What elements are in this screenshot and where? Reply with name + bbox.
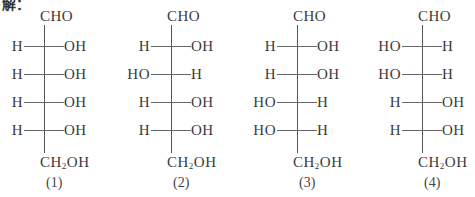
right-substituent: H [317,95,328,110]
substituent-bond [277,130,317,131]
left-substituent: HO [253,95,276,110]
substituent-bond [277,74,317,75]
substituent-bond [24,74,64,75]
substituent-bond [277,102,317,103]
substituent-bond [402,130,442,131]
hydroxymethyl-group: CH2OH [293,155,343,174]
oh-text: OH [320,154,343,170]
oh-text: OH [445,154,468,170]
structure-number-label: (4) [424,176,440,190]
aldehyde-group: CHO [293,9,326,24]
left-substituent: H [390,95,401,110]
left-substituent: H [139,123,150,138]
left-substituent: H [265,67,276,82]
structure-number-label: (1) [46,176,62,190]
left-substituent: H [12,123,23,138]
substituent-bond [151,102,191,103]
substituent-bond [277,46,317,47]
left-substituent: H [12,67,23,82]
right-substituent: OH [64,95,87,110]
left-substituent: HO [378,67,401,82]
carbon-chain-line [297,25,298,153]
substituent-bond [151,74,191,75]
oh-text: OH [194,154,217,170]
ch-text: CH [40,154,62,170]
substituent-bond [402,74,442,75]
left-substituent: HO [127,67,150,82]
substituent-bond [24,102,64,103]
oh-text: OH [67,154,90,170]
substituent-bond [24,130,64,131]
substituent-bond [402,46,442,47]
right-substituent: H [442,67,453,82]
hydroxymethyl-group: CH2OH [40,155,90,174]
left-substituent: H [12,39,23,54]
right-substituent: OH [442,123,465,138]
carbon-chain-line [422,25,423,153]
right-substituent: OH [64,67,87,82]
structure-number-label: (3) [299,176,315,190]
ch-text: CH [418,154,440,170]
aldehyde-group: CHO [418,9,451,24]
left-substituent: H [265,39,276,54]
right-substituent: OH [64,123,87,138]
left-substituent: HO [378,39,401,54]
right-substituent: OH [64,39,87,54]
substituent-bond [402,102,442,103]
right-substituent: H [191,67,202,82]
ch-text: CH [293,154,315,170]
right-substituent: H [442,39,453,54]
right-substituent: OH [317,67,340,82]
left-substituent: H [390,123,401,138]
right-substituent: OH [191,123,214,138]
substituent-bond [151,46,191,47]
substituent-bond [24,46,64,47]
structure-number-label: (2) [173,176,189,190]
right-substituent: OH [317,39,340,54]
left-substituent: H [139,95,150,110]
left-substituent: H [139,39,150,54]
right-substituent: OH [191,95,214,110]
carbon-chain-line [44,25,45,153]
aldehyde-group: CHO [167,9,200,24]
left-substituent: HO [253,123,276,138]
right-substituent: OH [442,95,465,110]
substituent-bond [151,130,191,131]
left-substituent: H [12,95,23,110]
right-substituent: H [317,123,328,138]
carbon-chain-line [171,25,172,153]
hydroxymethyl-group: CH2OH [418,155,468,174]
ch-text: CH [167,154,189,170]
solution-label: 解： [2,0,30,13]
right-substituent: OH [191,39,214,54]
hydroxymethyl-group: CH2OH [167,155,217,174]
aldehyde-group: CHO [40,9,73,24]
